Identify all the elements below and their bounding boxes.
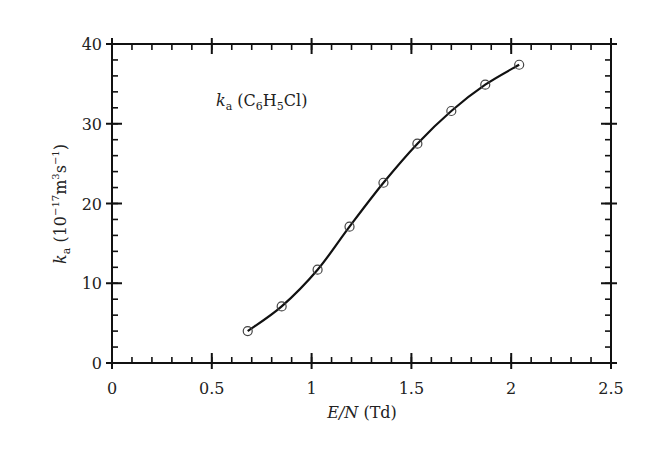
y-axis-title: ka (10−17m3s−1) [50, 144, 73, 264]
series-annotation: ka (C6H5Cl) [216, 91, 307, 113]
y-tick-label: 0 [92, 354, 102, 373]
x-tick-labels: 00.511.522.5 [107, 379, 624, 398]
x-tick-label: 1 [307, 379, 317, 398]
x-tick-label: 0 [107, 379, 117, 398]
y-tick-label: 30 [82, 115, 102, 134]
x-axis-title: E/N (Td) [326, 403, 397, 422]
x-tick-label: 1.5 [399, 379, 424, 398]
y-tick-labels: 010203040 [82, 35, 102, 373]
y-tick-label: 20 [82, 195, 102, 214]
x-tick-label: 0.5 [199, 379, 224, 398]
y-tick-label: 10 [82, 274, 102, 293]
major-ticks [106, 38, 617, 369]
plot-frame [112, 44, 611, 363]
minor-ticks [112, 44, 611, 363]
x-tick-label: 2.5 [598, 379, 623, 398]
x-tick-label: 2 [506, 379, 516, 398]
chart: 00.511.522.5 010203040 ka (C6H5Cl) E/N (… [0, 0, 650, 453]
y-tick-label: 40 [82, 35, 102, 54]
